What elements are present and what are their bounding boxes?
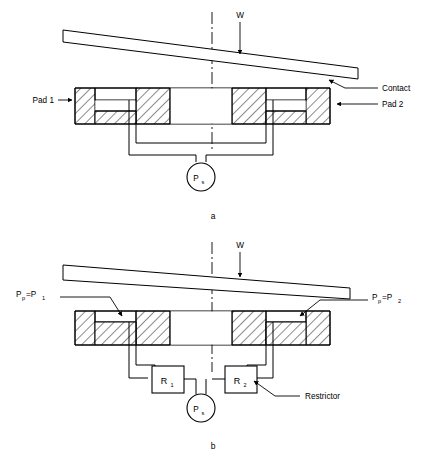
- load-label-b: W: [236, 241, 244, 250]
- padb1-pocket: [95, 311, 136, 322]
- pad1-pocket-base: [95, 111, 136, 124]
- resistor-1-label: R: [161, 376, 168, 386]
- pressure-left-sub2: 1: [42, 295, 45, 301]
- load-label-a: W: [236, 11, 244, 20]
- supply-source-circle-a: [187, 163, 215, 191]
- pressure-left-eq: =P: [26, 290, 37, 299]
- pad2-pocket: [266, 88, 306, 100]
- supply-label-a: P: [193, 174, 199, 183]
- padb1-inner-land: [136, 311, 170, 345]
- pad-1-label: Pad 1: [33, 96, 55, 105]
- pad-2-label: Pad 2: [382, 100, 404, 109]
- supply-sub-b: s: [202, 410, 205, 416]
- pad1-inner-land: [136, 88, 170, 124]
- supply-label-b: P: [193, 405, 199, 414]
- padb2-inner-land: [232, 311, 266, 345]
- caption-b: b: [211, 441, 216, 451]
- pipe-r1-to-tee: [184, 379, 196, 394]
- padb1-pocket-base: [95, 322, 136, 345]
- contact-leader-arrow: [329, 80, 345, 88]
- bearing-diagram-svg: W Pad 1 Contact Pad 2 P s a W P p =P 1 P…: [0, 0, 427, 463]
- contact-label: Contact: [382, 84, 411, 93]
- padb1-outer-land: [75, 311, 95, 345]
- pad2-inner-land: [232, 88, 266, 124]
- supply-source-circle-b: [187, 394, 215, 422]
- padb2-outer-land: [306, 311, 330, 345]
- pressure-right-eq: =P: [382, 293, 393, 302]
- resistor-2-label: R: [234, 376, 241, 386]
- padb2-pocket-base: [266, 322, 306, 345]
- resistor-1-sub: 1: [170, 382, 173, 388]
- tilted-slider-plate-a: [63, 30, 358, 79]
- pad1-pocket: [95, 88, 136, 100]
- tilted-slider-plate-b: [63, 265, 350, 299]
- supply-sub-a: s: [202, 179, 205, 185]
- restrictor-box-r1: [152, 366, 184, 393]
- pressure-left-leader-arrow: [110, 297, 122, 316]
- caption-a: a: [211, 211, 216, 221]
- pad1-outer-land: [75, 88, 95, 124]
- pressure-left-sub1: p: [22, 295, 25, 301]
- figure-root: W Pad 1 Contact Pad 2 P s a W P p =P 1 P…: [0, 0, 427, 463]
- pad2-pocket-base: [266, 111, 306, 124]
- resistor-2-sub: 2: [243, 382, 246, 388]
- pad2-outer-land: [306, 88, 330, 124]
- padb2-pocket: [266, 311, 306, 322]
- pressure-right-sub1: p: [378, 298, 381, 304]
- diagram-a: [58, 12, 378, 191]
- manifold-outer-left-a: [129, 155, 196, 162]
- pressure-right-sub2: 2: [398, 298, 401, 304]
- restrictor-box-r2: [225, 366, 257, 393]
- restrictor-label: Restrictor: [305, 392, 340, 401]
- manifold-outer-right-a: [206, 155, 273, 162]
